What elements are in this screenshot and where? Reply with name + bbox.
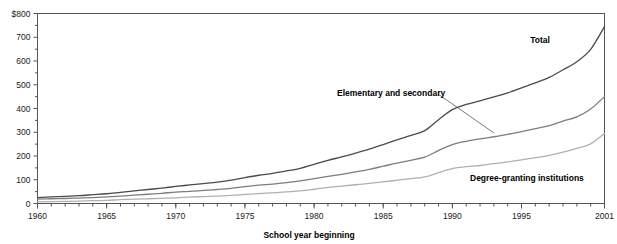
y-axis-tick-label: 400 <box>16 104 30 114</box>
y-axis-tick-label: 0 <box>26 199 31 209</box>
y-axis-major-ticks <box>34 14 38 204</box>
y-axis-tick-label: 600 <box>16 56 30 66</box>
x-axis-tick-label: 1980 <box>305 211 324 221</box>
y-axis-tick-label: $800 <box>12 9 31 19</box>
total-label: Total <box>530 35 550 45</box>
x-axis-tick-label: 1970 <box>166 211 185 221</box>
degree-granting-institutions-label: Degree-granting institutions <box>470 173 584 183</box>
y-axis-tick-label: 500 <box>16 80 30 90</box>
elementary-and-secondary-label: Elementary and secondary <box>337 88 445 98</box>
y-axis-tick-label: 300 <box>16 127 30 137</box>
series-annotations-group: TotalElementary and secondaryDegree-gran… <box>337 35 584 183</box>
x-axis-major-ticks <box>38 204 605 209</box>
x-axis-title: School year beginning <box>263 230 354 240</box>
series-line-elementary-and-secondary <box>38 97 605 200</box>
y-axis-tick-label: 100 <box>16 175 30 185</box>
y-axis-tick-label: 200 <box>16 151 30 161</box>
x-axis-tick-label: 1965 <box>97 211 116 221</box>
x-axis-tick-label: 2001 <box>595 211 614 221</box>
y-axis-tick-label: 700 <box>16 32 30 42</box>
y-axis-tick-labels: $8007006005004003002001000 <box>12 9 31 209</box>
x-axis-tick-label: 1960 <box>28 211 47 221</box>
x-axis-tick-labels: 196019651970197519801985199019952001 <box>28 211 614 221</box>
series-line-total <box>38 27 605 198</box>
education-expenditures-line-chart: $8007006005004003002001000 1960196519701… <box>0 0 617 244</box>
x-axis-tick-label: 1990 <box>443 211 462 221</box>
chart-container: $8007006005004003002001000 1960196519701… <box>0 0 617 244</box>
x-axis-tick-label: 1985 <box>374 211 393 221</box>
x-axis-tick-label: 1995 <box>512 211 531 221</box>
x-axis-tick-label: 1975 <box>235 211 254 221</box>
